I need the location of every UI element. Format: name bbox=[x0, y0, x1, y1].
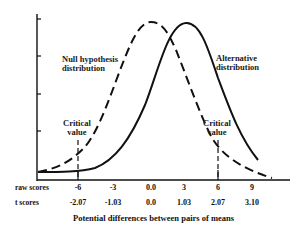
raw-tick: 3 bbox=[182, 183, 186, 192]
crit-right-line2: value bbox=[203, 128, 231, 137]
x-axis-title: Potential differences between pairs of m… bbox=[73, 213, 234, 223]
raw-tick: -3 bbox=[110, 183, 117, 192]
t-tick: 1.03 bbox=[177, 198, 191, 207]
t-tick: -2.07 bbox=[70, 198, 87, 207]
alternative-distribution-curve bbox=[38, 23, 258, 172]
raw-scores-row-label: raw scores bbox=[15, 183, 49, 192]
raw-tick: 6 bbox=[216, 183, 220, 192]
t-tick: -1.03 bbox=[105, 198, 122, 207]
null-distribution-curve bbox=[38, 22, 272, 178]
null-label-line2: distribution bbox=[62, 64, 118, 73]
t-tick: 2.07 bbox=[211, 198, 225, 207]
t-tick: 0.0 bbox=[146, 198, 156, 207]
t-scores-row-label: t scores bbox=[15, 198, 39, 207]
raw-tick: 0.0 bbox=[146, 183, 156, 192]
critical-value-label-left: Critical value bbox=[63, 119, 91, 137]
alt-label-line2: distribution bbox=[216, 63, 259, 72]
crit-left-line2: value bbox=[63, 128, 91, 137]
critical-value-label-right: Critical value bbox=[203, 119, 231, 137]
raw-tick: -6 bbox=[75, 183, 82, 192]
alternative-distribution-label: Alternative distribution bbox=[216, 54, 259, 72]
raw-tick: 9 bbox=[250, 183, 254, 192]
t-tick: 3.10 bbox=[245, 198, 259, 207]
null-distribution-label: Null hypothesis distribution bbox=[62, 55, 118, 73]
